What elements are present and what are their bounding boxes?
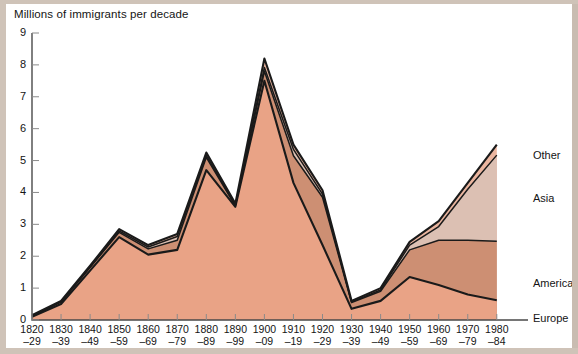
y-tick-label: 4	[10, 185, 26, 197]
y-tick-label: 2	[10, 249, 26, 261]
legend-label-europe: Europe	[533, 312, 568, 324]
legend-label-america: America	[533, 277, 573, 289]
y-tick-label: 1	[10, 281, 26, 293]
chart-title: Millions of immigrants per decade	[14, 8, 189, 20]
x-tick-label: 1980–84	[480, 324, 514, 347]
y-tick-label: 9	[10, 26, 26, 38]
frame-edge-top	[0, 0, 578, 4]
frame-edge-bottom	[0, 348, 578, 354]
y-tick-label: 6	[10, 122, 26, 134]
frame-edge-right	[572, 0, 578, 354]
legend-label-other: Other	[533, 149, 561, 161]
chart-page: Millions of immigrants per decade 012345…	[0, 0, 578, 354]
frame-edge-left	[0, 0, 6, 354]
legend-label-asia: Asia	[533, 192, 554, 204]
y-tick-label: 3	[10, 217, 26, 229]
y-tick-label: 7	[10, 90, 26, 102]
x-tick-label-decade-start: 1980	[480, 324, 514, 336]
x-tick-label-decade-end: –84	[480, 336, 514, 348]
y-tick-label: 5	[10, 154, 26, 166]
chart-frame	[6, 4, 572, 348]
y-tick-label: 8	[10, 58, 26, 70]
